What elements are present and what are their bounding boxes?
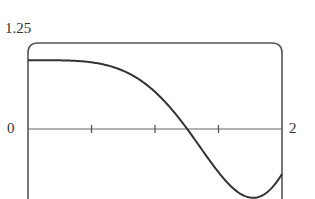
plot-frame xyxy=(28,43,282,199)
y-zero-label: 0 xyxy=(7,120,15,137)
y-max-label: 1.25 xyxy=(5,20,31,37)
plot-area xyxy=(0,0,315,199)
x-max-label: 2 xyxy=(289,120,297,137)
